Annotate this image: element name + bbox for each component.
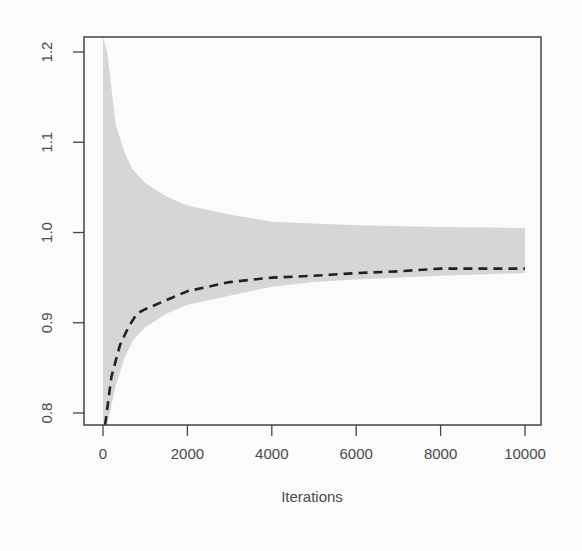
x-tick-label: 8000 <box>424 445 457 462</box>
confidence-band <box>103 37 525 425</box>
y-tick-label: 1.2 <box>38 42 55 63</box>
y-tick-label: 0.8 <box>38 403 55 424</box>
y-tick-label: 1.1 <box>38 132 55 153</box>
x-tick-label: 2000 <box>171 445 204 462</box>
y-tick-label: 0.9 <box>38 312 55 333</box>
x-tick-label: 0 <box>99 445 107 462</box>
x-axis-title: Iterations <box>281 488 343 505</box>
y-axis: 0.80.91.01.11.2 <box>38 42 84 424</box>
x-tick-label: 10000 <box>504 445 546 462</box>
y-tick-label: 1.0 <box>38 222 55 243</box>
x-tick-label: 4000 <box>255 445 288 462</box>
x-tick-label: 6000 <box>340 445 373 462</box>
chart: 0200040006000800010000 0.80.91.01.11.2 I… <box>0 0 582 551</box>
x-axis: 0200040006000800010000 <box>99 425 546 462</box>
